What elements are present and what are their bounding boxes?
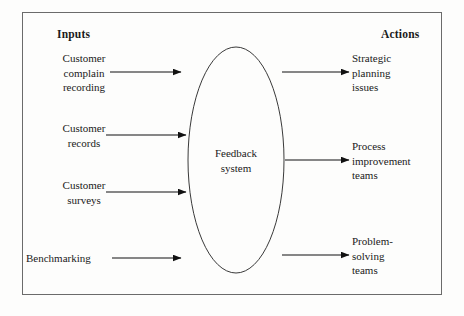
input-label-customer-records: Customer records <box>38 121 130 150</box>
center-node-label-feedback-system: Feedback system <box>188 146 284 175</box>
input-label-customer-complain-recording: Customer complain recording <box>38 51 130 95</box>
diagram-page: Inputs Actions Customer complain recordi… <box>0 0 464 316</box>
output-label-process-improvement-teams: Process improvement teams <box>352 139 448 183</box>
column-heading-inputs: Inputs <box>57 28 90 40</box>
input-label-customer-surveys: Customer surveys <box>38 178 130 207</box>
output-label-strategic-planning-issues: Strategic planning issues <box>352 51 448 95</box>
output-label-problem-solving-teams: Problem- solving teams <box>352 234 448 278</box>
column-heading-actions: Actions <box>381 28 419 40</box>
input-label-benchmarking: Benchmarking <box>26 251 130 266</box>
